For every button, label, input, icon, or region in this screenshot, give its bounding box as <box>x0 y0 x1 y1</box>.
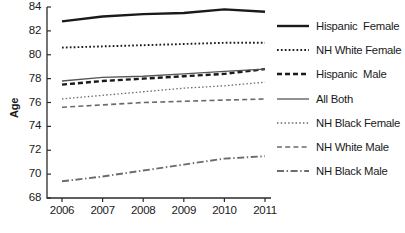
legend-item-label: NH Black Female <box>316 117 400 129</box>
x-tick-label: 2007 <box>86 204 120 216</box>
chart-legend: Hispanic FemaleNH White FemaleHispanic M… <box>277 14 405 183</box>
legend-item[interactable]: Hispanic Male <box>277 62 405 86</box>
series-line <box>62 82 265 99</box>
legend-item-label: Hispanic Female <box>316 20 399 32</box>
y-tick-label: 80 <box>15 48 41 60</box>
series-line <box>62 9 265 21</box>
y-tick-label: 74 <box>15 119 41 131</box>
legend-item-label: NH White Male <box>316 141 389 153</box>
legend-item-label: NH White Female <box>316 44 401 56</box>
y-tick-label: 76 <box>15 96 41 108</box>
legend-item-label: Hispanic Male <box>316 68 387 80</box>
y-tick-label: 70 <box>15 167 41 179</box>
series-line <box>62 99 265 107</box>
y-tick-label: 72 <box>15 143 41 155</box>
legend-line-sample <box>277 20 309 32</box>
y-tick-label: 68 <box>15 191 41 203</box>
legend-line-sample <box>277 165 309 177</box>
legend-item[interactable]: All Both <box>277 87 405 111</box>
legend-item[interactable]: Hispanic Female <box>277 14 405 38</box>
axis-spine <box>47 7 271 198</box>
legend-item-label: All Both <box>316 93 353 105</box>
legend-item[interactable]: NH Black Female <box>277 111 405 135</box>
legend-item[interactable]: NH White Female <box>277 38 405 62</box>
legend-line-sample <box>277 117 309 129</box>
series-line <box>62 156 265 181</box>
legend-item[interactable]: NH White Male <box>277 135 405 159</box>
x-tick-label: 2009 <box>167 204 201 216</box>
legend-item-label: NH Black Male <box>316 165 387 177</box>
x-tick-label: 2010 <box>207 204 241 216</box>
legend-line-sample <box>277 44 309 56</box>
y-tick-label: 84 <box>15 0 41 12</box>
legend-line-sample <box>277 68 309 80</box>
series-line <box>62 43 265 48</box>
x-tick-label: 2006 <box>45 204 79 216</box>
x-tick-label: 2008 <box>126 204 160 216</box>
series-line <box>62 69 265 81</box>
legend-line-sample <box>277 93 309 105</box>
x-tick-label: 2011 <box>248 204 282 216</box>
y-tick-label: 82 <box>15 24 41 36</box>
legend-line-sample <box>277 141 309 153</box>
life-expectancy-line-chart: Age 687072747678808284 20062007200820092… <box>0 0 405 233</box>
y-tick-label: 78 <box>15 72 41 84</box>
legend-item[interactable]: NH Black Male <box>277 159 405 183</box>
